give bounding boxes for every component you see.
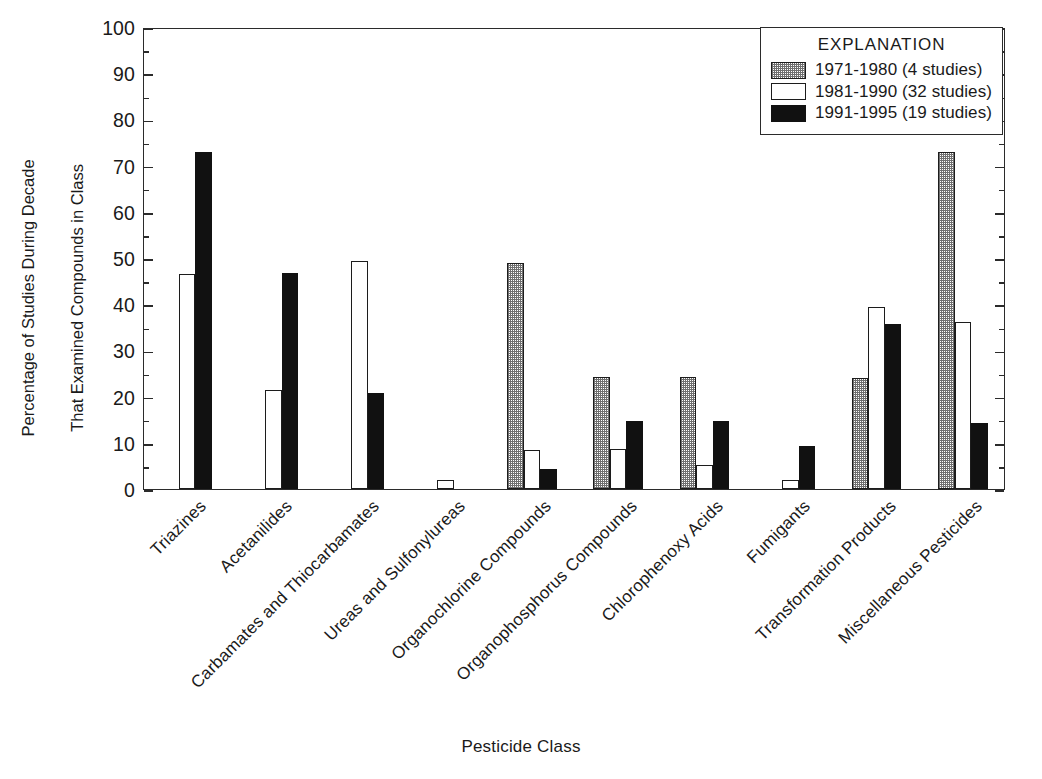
legend-item: 1991-1995 (19 studies) (771, 103, 992, 123)
major-tick (995, 305, 1004, 307)
major-tick (144, 398, 153, 400)
y-tick-label: 0 (124, 479, 135, 502)
x-tick-label-wrap: Triazines (146, 490, 216, 560)
x-tick-label-wrap: Organophosphorus Compounds (451, 490, 646, 685)
bar (351, 261, 368, 489)
x-tick-label-wrap: Organochlorine Compounds (386, 490, 560, 664)
major-tick (144, 352, 153, 354)
y-tick-label: 70 (113, 155, 135, 178)
minor-tick (999, 236, 1004, 238)
minor-tick (144, 51, 149, 53)
x-tick-label: Triazines (146, 490, 216, 560)
minor-tick (144, 236, 149, 238)
bar-group (680, 29, 730, 489)
bar (799, 446, 816, 489)
y-tick-label: 50 (113, 248, 135, 271)
y-axis-tick-labels: 1009080706050403020100 (75, 28, 135, 490)
legend: EXPLANATION 1971-1980 (4 studies)1981-19… (760, 27, 1003, 135)
legend-label: 1971-1980 (4 studies) (815, 60, 983, 80)
bar (593, 377, 610, 489)
bar (540, 469, 557, 489)
legend-label: 1981-1990 (32 studies) (815, 82, 992, 102)
x-tick-label-wrap: Transformation Products (750, 490, 905, 645)
bar-group (335, 29, 385, 489)
bar (885, 324, 902, 489)
y-tick-label: 10 (113, 432, 135, 455)
x-tick-label-wrap: Acetanilides (215, 490, 302, 577)
y-tick-label: 90 (113, 63, 135, 86)
y-tick-label: 30 (113, 340, 135, 363)
x-tick-label: Transformation Products (750, 490, 905, 645)
minor-tick (999, 467, 1004, 469)
bar (368, 393, 385, 489)
legend-rows: 1971-1980 (4 studies)1981-1990 (32 studi… (771, 60, 992, 123)
bar (955, 322, 972, 489)
major-tick (144, 167, 153, 169)
bar (713, 421, 730, 489)
major-tick (144, 259, 153, 261)
major-tick (144, 74, 153, 76)
minor-tick (999, 421, 1004, 423)
y-tick-label: 60 (113, 201, 135, 224)
y-tick-label: 100 (102, 17, 135, 40)
minor-tick (144, 375, 149, 377)
bar (852, 378, 869, 489)
minor-tick (144, 329, 149, 331)
major-tick (995, 213, 1004, 215)
chart-root: Percentage of Studies During Decade That… (0, 0, 1042, 779)
bar (610, 449, 627, 489)
bar-group (507, 29, 557, 489)
legend-swatch-icon (771, 62, 806, 79)
minor-tick (999, 144, 1004, 146)
major-tick (995, 259, 1004, 261)
x-tick-label-wrap: Miscellaneous Pesticides (833, 490, 991, 648)
x-tick-label: Miscellaneous Pesticides (833, 490, 991, 648)
legend-item: 1971-1980 (4 studies) (771, 60, 992, 80)
y-axis-title-line1: Percentage of Studies During Decade (16, 73, 41, 523)
major-tick (995, 398, 1004, 400)
legend-title: EXPLANATION (771, 35, 992, 55)
bar-group (421, 29, 471, 489)
x-axis-title: Pesticide Class (0, 737, 1042, 757)
minor-tick (999, 375, 1004, 377)
minor-tick (144, 98, 149, 100)
legend-label: 1991-1995 (19 studies) (815, 103, 992, 123)
bar-group (249, 29, 299, 489)
bar (265, 390, 282, 489)
x-tick-label: Ureas and Sulfonylureas (319, 490, 474, 645)
major-tick (144, 213, 153, 215)
bar (696, 465, 713, 489)
minor-tick (144, 421, 149, 423)
major-tick (144, 121, 153, 123)
bar (938, 152, 955, 489)
x-tick-label: Fumigants (741, 490, 819, 568)
legend-swatch-icon (771, 83, 806, 100)
x-tick-label: Acetanilides (215, 490, 302, 577)
bar (971, 423, 988, 489)
minor-tick (144, 282, 149, 284)
major-tick (144, 28, 153, 30)
major-tick (995, 352, 1004, 354)
bar (437, 480, 454, 489)
x-axis-tick-labels: TriazinesAcetanilidesCarbamates and Thio… (143, 490, 1005, 700)
bar (507, 263, 524, 489)
minor-tick (144, 467, 149, 469)
minor-tick (999, 329, 1004, 331)
bar (195, 152, 212, 489)
y-tick-label: 40 (113, 294, 135, 317)
x-tick-label-wrap: Ureas and Sulfonylureas (319, 490, 474, 645)
legend-item: 1981-1990 (32 studies) (771, 82, 992, 102)
bar (626, 421, 643, 489)
minor-tick (144, 190, 149, 192)
major-tick (144, 305, 153, 307)
bar (179, 274, 196, 489)
x-tick-label-wrap: Fumigants (741, 490, 819, 568)
bar (680, 377, 697, 489)
bar (782, 480, 799, 489)
bar (868, 307, 885, 489)
major-tick (995, 444, 1004, 446)
x-tick-label: Organochlorine Compounds (386, 490, 560, 664)
y-tick-label: 20 (113, 386, 135, 409)
legend-swatch-icon (771, 105, 806, 122)
bar-group (593, 29, 643, 489)
